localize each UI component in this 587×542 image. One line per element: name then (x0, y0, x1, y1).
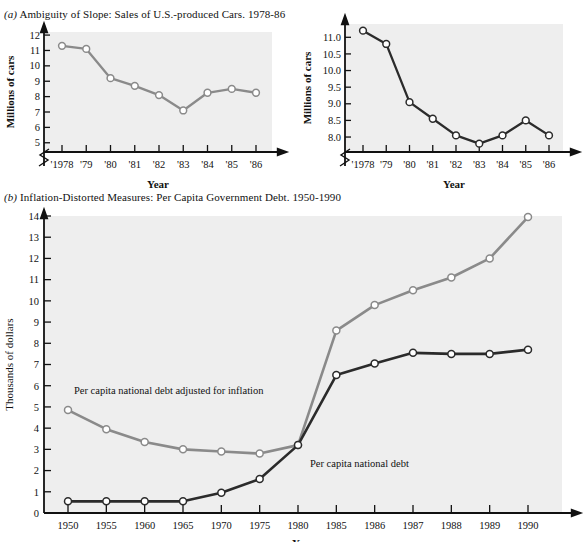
data-point-marker (360, 27, 367, 34)
series-annotation-adjusted: Per capita national debt adjusted for in… (74, 385, 264, 396)
panel-b-caption-text: Inflation-Distorted Measures: Per Capita… (20, 191, 341, 203)
x-tick-label: '1978 (51, 159, 74, 170)
y-tick-label: 11 (29, 274, 39, 285)
data-point-marker (180, 446, 187, 453)
y-tick-label: 9.5 (328, 82, 341, 93)
data-point-marker (180, 498, 187, 505)
y-tick-label: 6 (34, 381, 39, 392)
y-tick-label: 6 (35, 122, 40, 133)
y-tick-label: 4 (34, 423, 40, 434)
y-tick-label: 11.0 (323, 32, 341, 43)
data-point-marker (156, 92, 163, 99)
x-tick-label: 1987 (403, 520, 424, 531)
y-tick-label: 9 (35, 76, 40, 87)
x-tick-label: '82 (153, 159, 165, 170)
data-point-marker (448, 274, 455, 281)
chart-cars-expanded-svg: 8.08.59.09.510.010.511.0'1978'79'80'81'8… (295, 14, 587, 190)
y-tick-label: 2 (34, 465, 39, 476)
y-tick-label: 3 (34, 444, 39, 455)
x-tick-label: '81 (129, 159, 141, 170)
chart-cars-expanded: 8.08.59.09.510.010.511.0'1978'79'80'81'8… (295, 14, 587, 190)
data-point-marker (410, 349, 417, 356)
data-point-marker (218, 489, 225, 496)
data-point-marker (59, 42, 66, 49)
y-axis-arrowhead (40, 21, 49, 33)
x-tick-label: 1989 (479, 520, 500, 531)
data-point-marker (141, 498, 148, 505)
data-point-marker (371, 302, 378, 309)
y-axis-arrowhead (40, 207, 49, 219)
series-annotation-nominal: Per capita national debt (310, 458, 409, 469)
y-tick-label: 8 (34, 338, 39, 349)
x-tick-label: '83 (177, 159, 189, 170)
data-point-marker (486, 350, 493, 357)
data-point-marker (429, 115, 436, 122)
y-tick-label: 8 (35, 91, 40, 102)
x-tick-label: '86 (250, 159, 262, 170)
y-tick-label: 5 (35, 137, 40, 148)
y-tick-label: 12 (30, 30, 41, 41)
data-point-marker (453, 132, 460, 139)
x-tick-label: '86 (543, 159, 555, 170)
panel-b-caption: (b) Inflation-Distorted Measures: Per Ca… (4, 191, 341, 203)
y-tick-label: 9.0 (328, 98, 341, 109)
data-point-marker (448, 350, 455, 357)
x-tick-label: 1955 (96, 520, 117, 531)
x-axis-title: Year (147, 178, 169, 190)
x-tick-label: '81 (427, 159, 439, 170)
chart-cars-compressed-svg: 56789101112'1978'79'80'81'82'83'84'85'86… (0, 22, 300, 190)
y-tick-label: 0 (34, 508, 39, 519)
data-point-marker (476, 140, 483, 147)
data-point-marker (410, 287, 417, 294)
y-tick-label: 13 (29, 232, 40, 243)
y-tick-label: 11 (30, 45, 40, 56)
y-tick-label: 5 (34, 402, 39, 413)
x-tick-label: 1975 (249, 520, 270, 531)
data-point-marker (333, 327, 340, 334)
x-tick-label: 1950 (58, 520, 79, 531)
data-point-marker (65, 407, 72, 414)
x-tick-label: '80 (403, 159, 415, 170)
data-point-marker (525, 346, 532, 353)
x-axis-arrowhead (571, 509, 583, 518)
data-point-marker (103, 498, 110, 505)
data-point-marker (131, 82, 138, 89)
y-tick-label: 8.5 (328, 115, 341, 126)
y-tick-label: 10 (30, 60, 41, 71)
y-tick-label: 1 (34, 487, 39, 498)
data-point-marker (525, 214, 532, 221)
data-point-marker (228, 86, 235, 93)
y-axis-title: Thousands of dollars (3, 318, 15, 410)
data-point-marker (204, 89, 211, 96)
panel-a-caption-label: (a) (4, 8, 17, 20)
data-point-marker (406, 99, 413, 106)
chart-per-capita-debt-svg: 0123456789101112131419501955196019651970… (0, 204, 587, 542)
y-tick-label: 10.5 (323, 49, 341, 60)
x-tick-label: '79 (80, 159, 92, 170)
y-tick-label: 10 (29, 296, 40, 307)
data-point-marker (295, 442, 302, 449)
x-axis-title: Year (292, 537, 314, 542)
x-axis-title: Year (443, 178, 465, 190)
y-tick-label: 8.0 (328, 132, 341, 143)
data-point-marker (180, 107, 187, 114)
chart-per-capita-debt: 0123456789101112131419501955196019651970… (0, 204, 587, 542)
x-tick-label: 1988 (441, 520, 462, 531)
panel-a-caption: (a) Ambiguity of Slope: Sales of U.S.-pr… (4, 8, 285, 20)
x-tick-label: '82 (450, 159, 462, 170)
panel-a-caption-text: Ambiguity of Slope: Sales of U.S.-produc… (19, 8, 285, 20)
x-tick-label: 1960 (134, 520, 155, 531)
data-point-marker (256, 450, 263, 457)
data-point-marker (486, 255, 493, 262)
data-point-marker (333, 372, 340, 379)
data-point-marker (107, 75, 114, 82)
x-axis-arrowhead (570, 148, 582, 157)
x-tick-label: 1986 (364, 520, 385, 531)
y-tick-label: 10.0 (323, 65, 341, 76)
y-tick-label: 7 (35, 107, 40, 118)
y-axis-arrowhead (341, 13, 350, 25)
x-tick-label: '83 (473, 159, 485, 170)
data-point-marker (65, 498, 72, 505)
y-tick-label: 7 (34, 359, 39, 370)
y-tick-label: 9 (34, 317, 39, 328)
